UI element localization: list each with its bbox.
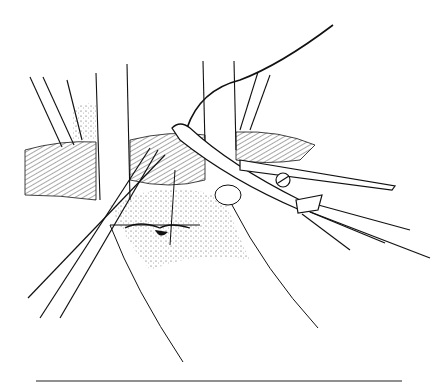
illustration — [0, 0, 435, 388]
suture-thread — [187, 25, 333, 128]
vessel — [25, 142, 96, 200]
surgical-illustration — [0, 0, 435, 388]
